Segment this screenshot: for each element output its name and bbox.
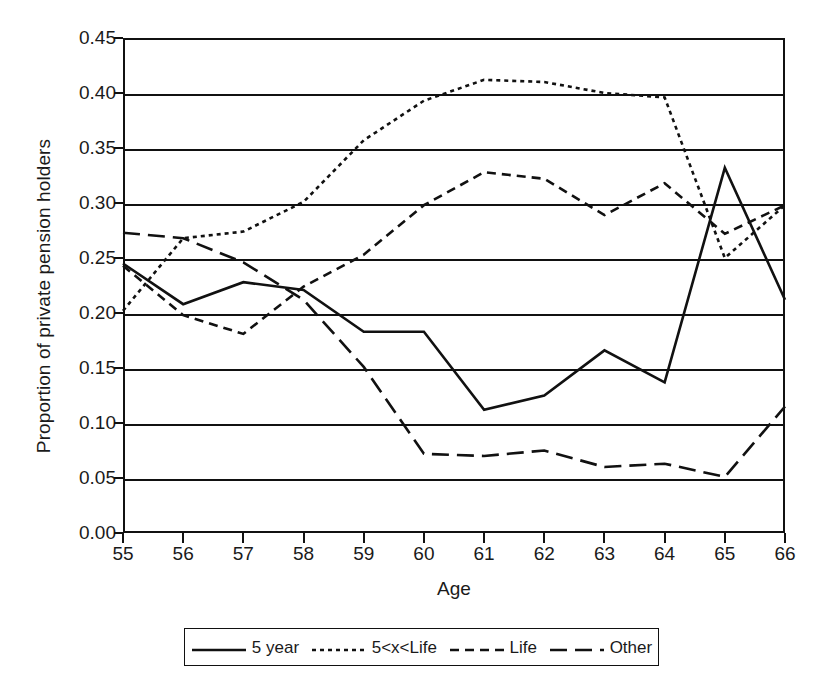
x-tick-mark (363, 533, 365, 543)
series-line-5-x-life (123, 80, 785, 311)
x-tick-mark (543, 533, 545, 543)
y-tick-mark (114, 422, 123, 424)
x-tick-mark (483, 533, 485, 543)
y-tick-mark (114, 92, 123, 94)
x-tick-label: 63 (584, 544, 624, 563)
y-tick-mark (114, 367, 123, 369)
chart-figure: Proportion of private pension holders 0.… (0, 0, 832, 690)
legend-swatch-5-x-life (311, 641, 367, 653)
legend-swatch-5-year (191, 641, 247, 653)
legend-label-5-x-life: 5<x<Life (372, 639, 437, 656)
x-tick-label: 55 (103, 544, 143, 563)
x-tick-label: 64 (645, 544, 685, 563)
chart-legend: 5 year5<x<LifeLifeOther (184, 628, 659, 666)
y-tick-label: 0.45 (60, 28, 116, 47)
plot-lines (123, 38, 785, 533)
x-tick-mark (182, 533, 184, 543)
series-line-other (123, 233, 785, 477)
x-tick-label: 58 (284, 544, 324, 563)
y-tick-label: 0.20 (60, 303, 116, 322)
legend-entry-5-year: 5 year (191, 639, 299, 656)
x-tick-label: 61 (464, 544, 504, 563)
x-tick-mark (724, 533, 726, 543)
legend-label-other: Other (610, 639, 653, 656)
x-tick-label: 60 (404, 544, 444, 563)
y-tick-mark (114, 147, 123, 149)
x-tick-mark (303, 533, 305, 543)
x-tick-label: 59 (344, 544, 384, 563)
legend-entry-life: Life (449, 639, 537, 656)
y-tick-mark (114, 202, 123, 204)
y-tick-label: 0.10 (60, 413, 116, 432)
x-tick-mark (122, 533, 124, 543)
x-tick-mark (603, 533, 605, 543)
x-tick-label: 66 (765, 544, 805, 563)
y-tick-label: 0.30 (60, 193, 116, 212)
x-tick-mark (423, 533, 425, 543)
y-tick-mark (114, 257, 123, 259)
y-axis-tick-labels: 0.000.050.100.150.200.250.300.350.400.45 (56, 0, 116, 533)
legend-entry-5-x-life: 5<x<Life (311, 639, 437, 656)
y-tick-mark (114, 312, 123, 314)
legend-entry-other: Other (549, 639, 653, 656)
x-tick-label: 65 (705, 544, 745, 563)
series-line-5-year (123, 168, 785, 410)
x-tick-mark (242, 533, 244, 543)
x-tick-mark (784, 533, 786, 543)
y-tick-label: 0.35 (60, 138, 116, 157)
y-axis-title: Proportion of private pension holders (33, 86, 55, 506)
legend-label-5-year: 5 year (252, 639, 299, 656)
x-tick-label: 62 (524, 544, 564, 563)
y-tick-mark (114, 477, 123, 479)
legend-label-life: Life (510, 639, 537, 656)
y-tick-label: 0.15 (60, 358, 116, 377)
x-axis-title: Age (123, 578, 785, 600)
y-tick-label: 0.25 (60, 248, 116, 267)
x-tick-label: 56 (163, 544, 203, 563)
x-tick-label: 57 (223, 544, 263, 563)
y-tick-label: 0.40 (60, 83, 116, 102)
legend-swatch-life (449, 641, 505, 653)
y-tick-label: 0.00 (60, 523, 116, 542)
y-tick-label: 0.05 (60, 468, 116, 487)
y-tick-mark (114, 37, 123, 39)
legend-swatch-other (549, 641, 605, 653)
x-tick-mark (664, 533, 666, 543)
